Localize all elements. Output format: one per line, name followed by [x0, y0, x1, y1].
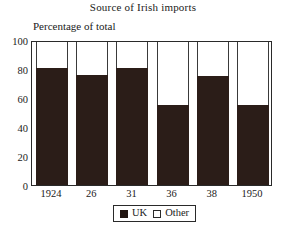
- bar-segment-uk: [157, 105, 189, 185]
- bar-group: [36, 42, 68, 185]
- bar-group: [237, 42, 269, 185]
- chart-subtitle: Percentage of total: [33, 20, 115, 32]
- bar-segment-uk: [116, 68, 148, 185]
- x-axis-tick-label: 36: [166, 188, 177, 199]
- chart-container: Source of Irish imports Percentage of to…: [0, 0, 286, 228]
- bar-group: [197, 42, 229, 185]
- y-axis-tick-label: 80: [4, 65, 28, 76]
- y-axis-tick-label: 60: [4, 94, 28, 105]
- legend-label: Other: [165, 208, 189, 219]
- y-axis-tick-label: 20: [4, 152, 28, 163]
- legend-label: UK: [132, 208, 147, 219]
- x-axis-tick-label: 1950: [241, 188, 262, 199]
- y-axis-tick-label: 100: [4, 36, 28, 47]
- x-axis-tick-label: 1924: [41, 188, 62, 199]
- bar-segment-uk: [76, 75, 108, 185]
- filled-square-icon: [120, 210, 128, 218]
- x-axis-tick-label: 38: [207, 188, 218, 199]
- bar-segment-uk: [36, 68, 68, 185]
- x-axis-tick-label: 31: [126, 188, 137, 199]
- chart-legend: UKOther: [113, 205, 196, 222]
- bar-group: [157, 42, 189, 185]
- legend-item: UK: [120, 208, 147, 219]
- x-axis-tick-label: 26: [86, 188, 97, 199]
- bars-layer: [32, 42, 271, 185]
- bar-group: [76, 42, 108, 185]
- bar-group: [116, 42, 148, 185]
- legend-item: Other: [153, 208, 189, 219]
- chart-title: Source of Irish imports: [0, 1, 286, 13]
- y-axis-tick-label: 0: [4, 181, 28, 192]
- bar-segment-uk: [197, 76, 229, 185]
- plot-area: [31, 41, 272, 186]
- open-square-icon: [153, 210, 161, 218]
- y-axis-tick-label: 40: [4, 123, 28, 134]
- bar-segment-uk: [237, 105, 269, 185]
